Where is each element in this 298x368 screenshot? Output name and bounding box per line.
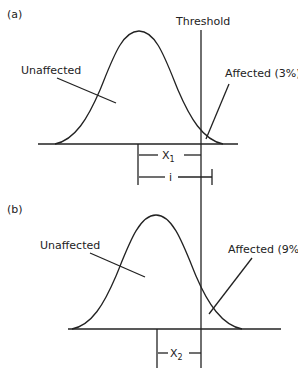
panel-a-x1-label: X1 xyxy=(162,149,175,164)
panel-a-unaffected-label: Unaffected xyxy=(21,64,81,77)
panel-b-affected-pointer xyxy=(209,258,252,314)
panel-b-distribution-curve xyxy=(72,215,242,329)
panel-a-unaffected-pointer xyxy=(57,78,116,103)
panel-b-x2-label: X2 xyxy=(170,347,183,362)
panel-a-tag: (a) xyxy=(7,8,22,21)
panel-a-i-label: i xyxy=(169,171,172,184)
panel-a-affected-label: Affected (3%) xyxy=(225,67,298,80)
panel-b-affected-label: Affected (9%) xyxy=(228,243,298,256)
panel-a-affected-pointer xyxy=(206,84,229,139)
threshold-label: Threshold xyxy=(175,15,230,28)
panel-b-unaffected-label: Unaffected xyxy=(40,239,100,252)
panel-b-tag: (b) xyxy=(7,203,23,216)
liability-threshold-diagram: (a) Threshold Unaffected Affected (3%) X… xyxy=(0,0,298,368)
